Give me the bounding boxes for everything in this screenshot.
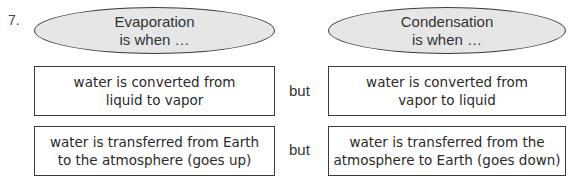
statement-line: vapor to liquid [398, 91, 496, 109]
evaporation-heading-subtitle: is when … [114, 31, 194, 49]
condensation-statement-2: water is transferred from the atmosphere… [328, 126, 566, 176]
condensation-statement-1: water is converted from vapor to liquid [328, 66, 566, 116]
question-number: 7. [8, 12, 20, 28]
evaporation-statement-1: water is converted from liquid to vapor [34, 66, 275, 116]
condensation-heading-ellipse: Condensation is when … [328, 7, 566, 54]
statement-line: to the atmosphere (goes up) [58, 151, 252, 169]
statement-line: liquid to vapor [106, 91, 204, 109]
evaporation-heading-title: Evaporation [114, 13, 194, 31]
condensation-heading-subtitle: is when … [401, 31, 494, 49]
connector-but-2: but [289, 141, 310, 158]
evaporation-statement-2: water is transferred from Earth to the a… [34, 126, 275, 176]
connector-but-1: but [289, 82, 310, 99]
statement-line: water is transferred from the [349, 133, 544, 151]
statement-line: water is converted from [366, 73, 528, 91]
condensation-heading-title: Condensation [401, 13, 494, 31]
evaporation-heading-ellipse: Evaporation is when … [34, 7, 275, 54]
statement-line: atmosphere to Earth (goes down) [333, 151, 560, 169]
statement-line: water is converted from [74, 73, 236, 91]
statement-line: water is transferred from Earth [50, 133, 259, 151]
